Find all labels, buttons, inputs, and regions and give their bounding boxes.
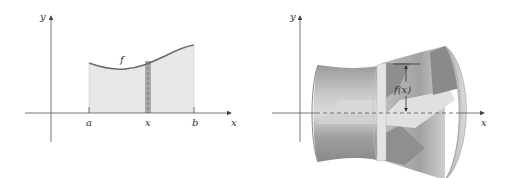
tick-label-a: a — [86, 117, 92, 128]
cross-section-band — [377, 63, 386, 161]
tick-label-b: b — [192, 117, 198, 128]
radius-label: f(x) — [393, 84, 411, 95]
left-graph: y x f a x b — [25, 11, 237, 142]
x-axis-label: x — [231, 117, 237, 128]
x-axis-label: x — [481, 117, 487, 128]
curve-label-f: f — [119, 54, 126, 65]
y-axis-label: y — [39, 11, 46, 22]
diagram-canvas: y x f a x b — [0, 0, 513, 178]
y-axis-label: y — [289, 11, 296, 22]
tick-label-x: x — [145, 117, 151, 128]
area-under-curve — [89, 45, 194, 113]
right-graph: f(x) y x — [272, 11, 487, 178]
